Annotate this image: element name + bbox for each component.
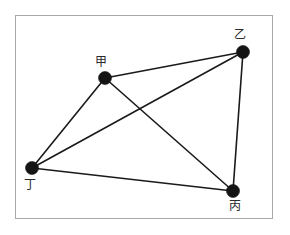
graph-edge-yi-ding xyxy=(32,52,243,168)
screenshot-root: 甲乙丙丁 xyxy=(0,0,290,235)
graph-canvas xyxy=(0,0,290,235)
graph-node-label-ding: 丁 xyxy=(24,179,36,191)
graph-edge-jia-yi xyxy=(105,52,243,78)
graph-node-label-bing: 丙 xyxy=(229,200,241,212)
graph-node-yi xyxy=(237,46,250,59)
graph-node-ding xyxy=(26,162,39,175)
graph-node-label-jia: 甲 xyxy=(95,56,107,68)
graph-node-bing xyxy=(227,185,240,198)
graph-edge-jia-bing xyxy=(105,78,233,191)
graph-node-jia xyxy=(99,72,112,85)
graph-edge-jia-ding xyxy=(32,78,105,168)
edge-layer xyxy=(32,52,243,191)
node-layer xyxy=(26,46,250,198)
graph-edge-yi-bing xyxy=(233,52,243,191)
graph-edge-ding-bing xyxy=(32,168,233,191)
graph-node-label-yi: 乙 xyxy=(234,29,246,41)
